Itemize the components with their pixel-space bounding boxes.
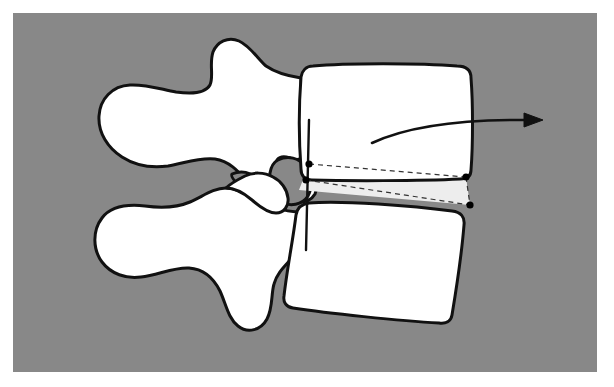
- marker-lower-right: [466, 201, 473, 208]
- spine-illustration-canvas: [0, 0, 614, 387]
- lower-vertebral-body: [284, 202, 464, 323]
- marker-lower-left: [302, 176, 309, 183]
- marker-upper-left: [305, 160, 312, 167]
- marker-upper-right: [462, 173, 469, 180]
- upper-vertebral-body: [300, 64, 473, 181]
- figure-root: [0, 0, 614, 387]
